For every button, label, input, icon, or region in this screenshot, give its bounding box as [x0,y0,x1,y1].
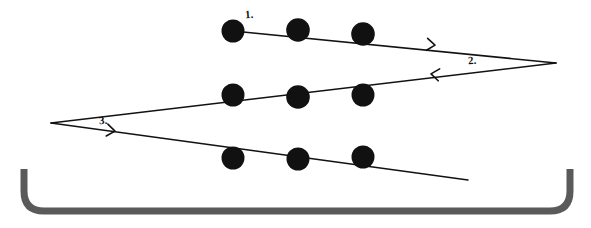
segment-label-1: 1. [245,8,254,21]
ray-diagram [0,0,591,228]
sphere-bottom-2 [287,148,310,171]
sphere-middle-3 [352,84,375,107]
ray-segment-1 [233,31,556,63]
sphere-bottom-1 [222,147,245,170]
sphere-middle-2 [286,85,310,109]
sphere-top-2 [286,18,310,42]
sphere-top-1 [222,20,245,43]
container-vessel [24,169,570,211]
sphere-bottom-3 [352,146,375,169]
segment-label-3: 3. [99,114,108,127]
sphere-middle-1 [222,84,245,107]
arrow-segment-1-icon [426,38,435,51]
arrow-segment-2-icon [430,68,439,81]
sphere-top-3 [351,22,375,46]
diagram-canvas: 1. 2. 3. [0,0,591,228]
segment-label-2: 2. [468,54,477,67]
